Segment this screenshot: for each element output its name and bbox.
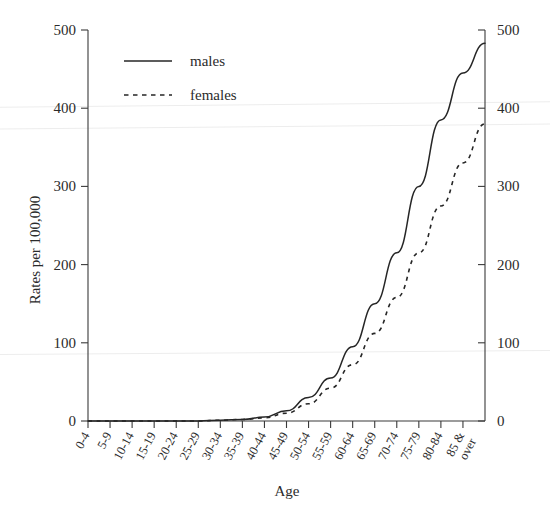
svg-text:80-84: 80-84 (419, 429, 445, 462)
y-axis-right-ticks (478, 30, 485, 421)
y-tick-label-left: 200 (54, 257, 77, 273)
chart-canvas: 0100200300400500 0100200300400500 0-45-9… (0, 0, 550, 512)
y-tick-label-right: 0 (497, 413, 505, 429)
x-tick-label: 10-14 (111, 429, 137, 462)
x-tick-label: 55-59 (309, 430, 335, 462)
svg-text:10-14: 10-14 (111, 429, 137, 462)
x-tick-label: 35-39 (221, 430, 247, 462)
series-line-males (88, 43, 485, 421)
y-tick-label-right: 300 (497, 178, 520, 194)
chart-legend: males females (124, 53, 237, 103)
y-tick-label-left: 300 (54, 178, 77, 194)
legend-label-males: males (190, 53, 225, 69)
svg-text:35-39: 35-39 (221, 430, 247, 462)
y-axis-left-tick-labels: 0100200300400500 (54, 22, 77, 429)
x-tick-label: 60-64 (331, 429, 357, 462)
y-axis-right-tick-labels: 0100200300400500 (497, 22, 520, 429)
x-tick-label: 30-34 (199, 429, 225, 462)
series-line-females (88, 124, 485, 421)
y-tick-label-right: 500 (497, 22, 520, 38)
x-tick-label: 50-54 (287, 429, 313, 462)
x-axis-ticks (88, 421, 463, 428)
svg-text:0-4: 0-4 (72, 429, 93, 451)
legend-label-females: females (190, 87, 237, 103)
x-tick-label: 80-84 (419, 429, 445, 462)
x-tick-label: 45-49 (265, 430, 291, 462)
y-tick-label-right: 200 (497, 257, 520, 273)
y-tick-label-left: 0 (69, 413, 77, 429)
x-axis-title: Age (275, 483, 300, 499)
y-axis-left-ticks (81, 30, 88, 421)
x-tick-label: 85 &over (443, 429, 479, 465)
svg-text:40-44: 40-44 (243, 429, 269, 462)
x-tick-label: 25-29 (177, 430, 203, 462)
y-axis-title: Rates per 100,000 (27, 196, 43, 305)
y-tick-label-left: 400 (54, 100, 77, 116)
x-tick-label: 70-74 (375, 429, 401, 462)
svg-text:65-69: 65-69 (353, 430, 379, 462)
y-tick-label-right: 100 (497, 335, 520, 351)
x-tick-label: 0-4 (72, 429, 93, 451)
svg-text:45-49: 45-49 (265, 430, 291, 462)
x-tick-label: 5-9 (95, 430, 115, 451)
x-tick-label: 20-24 (155, 429, 181, 462)
svg-text:60-64: 60-64 (331, 429, 357, 462)
x-tick-label: 65-69 (353, 430, 379, 462)
svg-text:70-74: 70-74 (375, 429, 401, 462)
x-axis-tick-labels: 0-45-910-1415-1920-2425-2930-3435-3940-4… (72, 429, 479, 465)
svg-text:75-79: 75-79 (397, 430, 423, 462)
x-tick-label: 75-79 (397, 430, 423, 462)
svg-text:25-29: 25-29 (177, 430, 203, 462)
svg-text:30-34: 30-34 (199, 429, 225, 462)
svg-text:55-59: 55-59 (309, 430, 335, 462)
svg-text:50-54: 50-54 (287, 429, 313, 462)
svg-text:5-9: 5-9 (95, 430, 115, 451)
svg-text:20-24: 20-24 (155, 429, 181, 462)
y-tick-label-right: 400 (497, 100, 520, 116)
y-tick-label-left: 100 (54, 335, 77, 351)
y-tick-label-left: 500 (54, 22, 77, 38)
x-tick-label: 15-19 (133, 430, 159, 462)
svg-text:15-19: 15-19 (133, 430, 159, 462)
x-tick-label: 40-44 (243, 429, 269, 462)
chart-figure: 0100200300400500 0100200300400500 0-45-9… (0, 0, 550, 512)
